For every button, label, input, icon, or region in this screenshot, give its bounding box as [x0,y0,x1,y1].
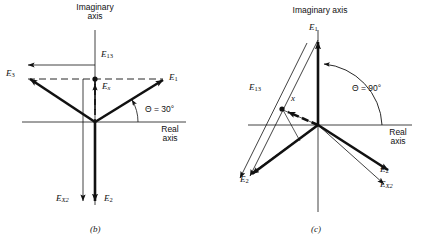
panel-b-angle-arc [132,100,138,122]
panel-b-label-e13: E13 [101,50,113,60]
panel-c-vector-ex2 [318,125,384,184]
panel-c-point-marker [279,106,284,111]
panel-c-construction-line-3 [283,110,300,141]
phasor-figure-pair: Imaginary axis E13 E3 E1 Ex Θ = 30° Real… [0,0,424,246]
panel-c-imaginary-axis-label: Imaginary axis [270,6,370,15]
panel-b-label-e2: E2 [104,194,113,204]
panel-b-label-ex: Ex [102,82,110,92]
panel-c-vector-dashed [288,112,318,125]
panel-c-label-e2-right: E2 [380,165,389,175]
panel-c-label-e1: E1 [309,23,318,33]
panel-c-real-axis-label: Real axis [378,128,418,147]
panel-c-label-e2-left: E2 [240,175,249,185]
panel-b-label-e1: E1 [169,73,178,83]
panel-b-vector-e3 [30,79,95,122]
panel-c-label-ex2: EX2 [380,180,393,190]
phasor-diagram-canvas [0,0,424,246]
panel-c-angle-label: Θ = 90° [352,84,381,93]
panel-b-caption: (b) [90,224,101,234]
panel-c-point-label: x [291,94,295,104]
panel-b-imaginary-axis-label: Imaginary axis [62,3,128,22]
panel-b-real-axis-label: Real axis [150,125,190,144]
panel-b-angle-label: Θ = 30° [145,105,174,114]
panel-c-vector-e2-left [252,125,318,174]
panel-b-label-e3: E3 [6,69,15,79]
panel-b-point-marker [92,76,97,81]
panel-b-label-ex2: EX2 [56,194,69,204]
panel-c-caption: (c) [311,224,321,234]
panel-c-label-e13: E13 [249,83,261,93]
panel-c-angle-arc [324,64,382,125]
